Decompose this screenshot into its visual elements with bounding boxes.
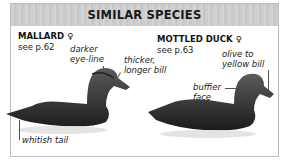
page-ref-mallard: see p.62 — [18, 42, 55, 52]
leader-line — [19, 120, 20, 140]
page-ref-mottled-duck: see p.63 — [157, 45, 194, 55]
mallard-illustration — [2, 62, 137, 137]
section-header: SIMILAR SPECIES — [11, 4, 278, 26]
section-title: SIMILAR SPECIES — [88, 8, 202, 22]
annotation-whitish-tail: whitish tail — [22, 135, 68, 145]
species-name-mottled-duck: MOTTLED DUCK ♀ — [157, 34, 242, 44]
annotation-darker-eye-line: darkereye-line — [70, 44, 104, 64]
mottled-duck-illustration — [146, 68, 276, 140]
species-name-mallard: MALLARD ♀ — [18, 31, 73, 41]
annotation-olive-yellow-bill: olive toyellow bill — [222, 49, 264, 69]
